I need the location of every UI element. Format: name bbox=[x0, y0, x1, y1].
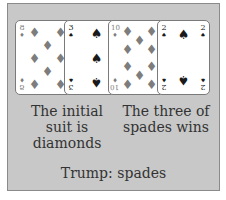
card-index-bottom: 10♦ bbox=[111, 77, 119, 91]
spade-icon: ♠ bbox=[90, 27, 103, 40]
card-index-bottom: 3♠ bbox=[67, 77, 75, 91]
diamond-icon: ♦ bbox=[18, 77, 26, 83]
spade-icon: ♠ bbox=[177, 74, 190, 87]
diamond-icon: ♦ bbox=[41, 65, 54, 78]
spade-icon: ♠ bbox=[199, 32, 207, 38]
card-index-top: 10♦ bbox=[111, 24, 119, 38]
spade-icon: ♠ bbox=[67, 77, 75, 83]
spade-icon: ♠ bbox=[177, 28, 190, 41]
spade-icon: ♠ bbox=[160, 32, 168, 38]
caption-winner: The three of spades wins bbox=[116, 103, 216, 135]
card-index-bottom: 8♦ bbox=[18, 77, 26, 91]
spade-icon: ♠ bbox=[160, 77, 168, 83]
spade-icon: ♠ bbox=[67, 32, 75, 38]
diamond-icon: ♦ bbox=[28, 78, 41, 91]
diamond-icon: ♦ bbox=[18, 32, 26, 38]
card-2-spades: 2♠ 2♠ 2♠ 2♠ ♠ ♠ bbox=[157, 20, 210, 95]
card-index-top-right: 2♠ bbox=[199, 24, 207, 38]
diamond-icon: ♦ bbox=[41, 39, 54, 52]
diamond-icon: ♦ bbox=[121, 43, 134, 56]
spade-icon: ♠ bbox=[199, 77, 207, 83]
card-index-top-left: 2♠ bbox=[160, 24, 168, 38]
card-index-bottom-right: 2♠ bbox=[199, 77, 207, 91]
spade-icon: ♠ bbox=[90, 76, 103, 89]
card-index-top: 3♠ bbox=[67, 24, 75, 38]
card-index-bottom-left: 2♠ bbox=[160, 77, 168, 91]
card-index-top: 8♦ bbox=[18, 24, 26, 38]
diamond-icon: ♦ bbox=[121, 78, 134, 91]
diamond-icon: ♦ bbox=[28, 26, 41, 39]
diamond-icon: ♦ bbox=[28, 52, 41, 65]
spade-icon: ♠ bbox=[90, 52, 103, 65]
trump-label: Trump: spades bbox=[7, 165, 220, 181]
caption-initial-suit: The initial suit is diamonds bbox=[17, 103, 117, 151]
diamond-icon: ♦ bbox=[111, 32, 119, 38]
